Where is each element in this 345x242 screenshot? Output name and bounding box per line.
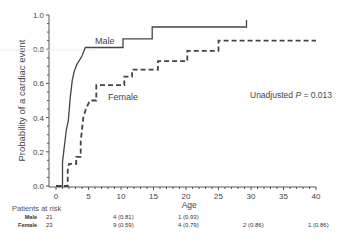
series-female-line	[56, 41, 316, 186]
x-tick-label: 10	[117, 192, 126, 201]
risk-cell: 4 (0.79)	[178, 222, 199, 228]
risk-cell: 23	[46, 222, 53, 228]
y-tick-label: 0.6	[33, 79, 45, 88]
y-tick-label: 1.0	[33, 11, 45, 20]
risk-cell: 21	[46, 214, 53, 220]
y-axis-label: Probability of a cardiac event	[16, 39, 27, 161]
x-tick-label: 30	[247, 192, 256, 201]
risk-cell: 1 (0.93)	[178, 214, 199, 220]
x-tick-label: 40	[312, 192, 321, 201]
p-value-annotation: Unadjusted P = 0.013	[250, 90, 332, 100]
y-tick-label: 0.0	[33, 182, 45, 191]
y-tick-label: 0.4	[33, 114, 45, 123]
x-tick-label: 0	[54, 192, 59, 201]
series-male-line	[56, 20, 247, 186]
risk-cell: 4 (0.81)	[113, 214, 134, 220]
y-tick-label: 0.2	[33, 148, 45, 157]
risk-cell: 2 (0.86)	[243, 222, 264, 228]
series-label-female: Female	[108, 92, 138, 102]
risk-table-title: Patients at risk	[12, 204, 61, 213]
x-axis-label: Age	[182, 200, 197, 210]
risk-cell: 1 (0.86)	[308, 222, 329, 228]
x-tick-label: 35	[279, 192, 288, 201]
risk-cell: 9 (0.59)	[113, 222, 134, 228]
x-tick-label: 5	[86, 192, 91, 201]
x-tick-label: 15	[149, 192, 158, 201]
risk-row-label: Male	[25, 214, 37, 220]
x-tick-label: 25	[214, 192, 223, 201]
series-label-male: Male	[95, 36, 115, 46]
risk-row-label: Female	[18, 222, 37, 228]
